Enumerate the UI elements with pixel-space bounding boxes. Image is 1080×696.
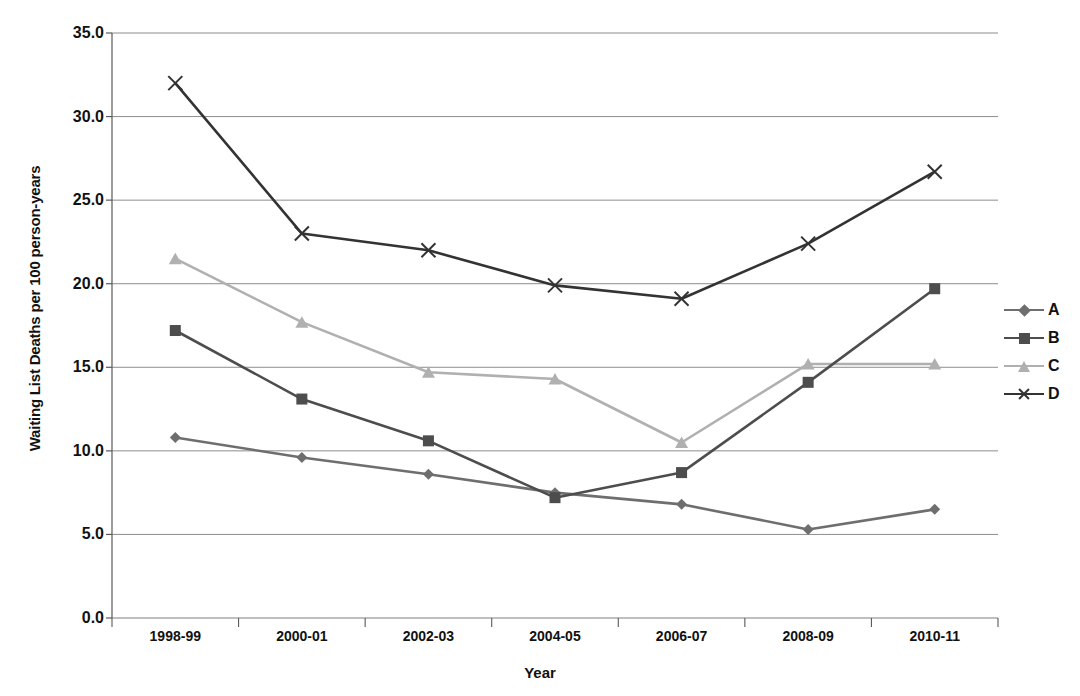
series-B [170,283,940,503]
legend-label-B: B [1044,330,1060,346]
x-tick-label: 2006-07 [612,628,752,644]
data-point [169,253,182,265]
data-point [550,492,561,503]
x-marker-icon [1017,387,1031,401]
series-line [175,289,934,498]
x-tick-label: 2010-11 [865,628,1005,644]
data-point [423,435,434,446]
series-D [168,76,941,306]
axis-lines [106,33,998,627]
data-point [676,467,687,478]
legend-item-C[interactable]: C [1004,352,1078,380]
series-C [169,253,941,448]
data-point [423,469,434,480]
legend-label-A: A [1044,302,1060,318]
legend-swatch-A [1004,300,1044,320]
legend-item-A[interactable]: A [1004,296,1078,324]
x-tick-label: 2004-05 [485,628,625,644]
legend-label-D: D [1044,386,1060,402]
legend-item-D[interactable]: D [1004,380,1078,408]
legend-swatch-C [1004,356,1044,376]
data-point [929,504,940,515]
data-point [676,499,687,510]
data-point [170,432,181,443]
plot-area [0,0,1080,696]
triangle-marker-icon [1018,361,1030,372]
line-chart: Waiting List Deaths per 100 person-years… [0,0,1080,696]
legend-label-C: C [1044,358,1060,374]
x-axis-title: Year [0,664,1080,681]
legend-swatch-B [1004,328,1044,348]
chart-legend: ABCD [1004,296,1078,408]
data-point [296,394,307,405]
x-tick-label: 2000-01 [232,628,372,644]
square-marker-icon [1019,333,1030,344]
data-point [803,377,814,388]
series-A [170,432,940,535]
data-point [295,316,308,328]
data-point [296,452,307,463]
data-point [803,524,814,535]
x-tick-label: 2002-03 [358,628,498,644]
data-point [170,325,181,336]
gridlines [112,33,998,618]
series-line [175,83,934,299]
legend-swatch-D [1004,384,1044,404]
x-tick-label: 1998-99 [105,628,245,644]
data-point [929,283,940,294]
x-tick-label: 2008-09 [738,628,878,644]
legend-item-B[interactable]: B [1004,324,1078,352]
diamond-marker-icon [1018,304,1031,317]
